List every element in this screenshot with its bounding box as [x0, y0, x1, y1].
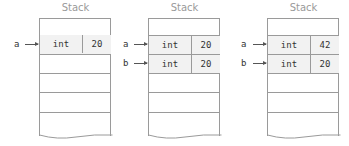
stack-row-empty [40, 92, 111, 111]
stack-slot: int 20 [40, 35, 111, 54]
value-cell: 20 [311, 55, 339, 73]
stack-row-b: int 20 [149, 54, 220, 73]
stack-row-empty [40, 54, 111, 73]
stack-diagram-3: Stack int 42 int 20 [267, 0, 340, 146]
arrow-icon [253, 44, 266, 45]
type-cell: int [40, 35, 83, 53]
stack-title: Stack [267, 2, 340, 13]
stack-row-empty [149, 112, 220, 131]
variable-label-a: a [123, 39, 128, 49]
stack-frame: int 20 int 20 [148, 18, 220, 136]
variable-label-b: b [241, 58, 246, 68]
stack-row-empty [268, 73, 339, 92]
stack-diagram-2: Stack int 20 int 20 [148, 0, 221, 146]
stack-row-empty [40, 73, 111, 92]
value-cell: 20 [83, 35, 111, 53]
torn-edge-icon [267, 132, 341, 142]
stack-title: Stack [39, 2, 112, 13]
type-cell: int [149, 55, 192, 73]
stack-frame: int 20 [39, 18, 111, 136]
stack-row-a: int 20 [40, 35, 111, 54]
variable-label-b: b [123, 58, 128, 68]
value-cell: 42 [311, 36, 339, 54]
stack-row-a: int 20 [149, 35, 220, 54]
stack-row-empty [149, 92, 220, 111]
value-cell: 20 [192, 55, 220, 73]
stack-row-empty [149, 73, 220, 92]
value-cell: 20 [192, 36, 220, 54]
variable-label-a: a [14, 39, 19, 49]
arrow-icon [253, 63, 266, 64]
stack-row-empty [40, 112, 111, 131]
torn-edge-icon [39, 132, 113, 142]
stack-row-empty [268, 112, 339, 131]
torn-edge-icon [148, 132, 222, 142]
arrow-icon [25, 44, 38, 45]
type-cell: int [268, 55, 311, 73]
stack-diagram-1: Stack int 20 [39, 0, 112, 146]
stack-title: Stack [148, 2, 221, 13]
arrow-icon [134, 63, 147, 64]
stack-row-a: int 42 [268, 35, 339, 54]
variable-label-a: a [241, 39, 246, 49]
type-cell: int [268, 36, 311, 54]
stack-row-empty [268, 92, 339, 111]
stack-row-b: int 20 [268, 54, 339, 73]
stack-frame: int 42 int 20 [267, 18, 339, 136]
arrow-icon [134, 44, 147, 45]
type-cell: int [149, 36, 192, 54]
